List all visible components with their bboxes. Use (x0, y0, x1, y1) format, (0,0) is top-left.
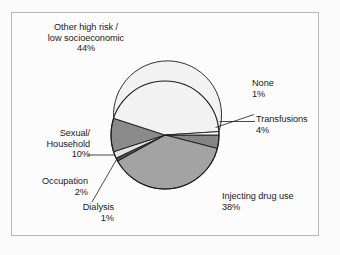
pie-label-occupation-line1: Occupation (42, 176, 88, 186)
pie-label-sexual-household-value: 10% (12, 149, 90, 160)
pie-label-dialysis-line1: Dialysis (83, 202, 114, 212)
pie-label-occupation-value: 2% (10, 187, 88, 198)
pie-label-transfusions-value: 4% (256, 125, 330, 136)
pie-label-sexual-household-line1: Sexual/ (60, 128, 90, 138)
pie-label-transfusions-line1: Transfusions (256, 114, 308, 124)
pie-label-dialysis-value: 1% (52, 213, 114, 224)
pie-label-injecting-drug-use-line1: Injecting drug use (222, 191, 294, 201)
pie-label-sexual-household-line2: Household (47, 139, 90, 149)
pie-label-other-high-risk-value: 44% (28, 43, 144, 54)
pie-label-none-value: 1% (252, 89, 312, 100)
pie-label-dialysis: Dialysis 1% (52, 202, 114, 223)
pie-label-injecting-drug-use-value: 38% (222, 202, 322, 213)
pie-label-none: None 1% (252, 78, 312, 99)
pie-label-other-high-risk: Other high risk / low socioeconomic 44% (28, 22, 144, 54)
leader-line-dialysis (92, 160, 117, 203)
pie-label-sexual-household: Sexual/ Household 10% (12, 128, 90, 160)
pie-label-transfusions: Transfusions 4% (256, 114, 330, 135)
pie-label-injecting-drug-use: Injecting drug use 38% (222, 191, 322, 212)
pie-label-occupation: Occupation 2% (10, 176, 88, 197)
pie-label-other-high-risk-line1: Other high risk / (54, 22, 118, 32)
pie-label-none-line1: None (252, 78, 274, 88)
pie-label-other-high-risk-line2: low socioeconomic (48, 33, 124, 43)
pie-chart-figure: Other high risk / low socioeconomic 44% … (0, 0, 340, 255)
pie-slice-other-high-risk (114, 61, 222, 135)
